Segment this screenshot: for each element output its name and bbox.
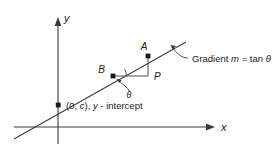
y-axis-arrowhead-icon (55, 17, 62, 26)
gradient-line-figure: y x A B P θ Gradient m = tan θ (0, c), y… (0, 0, 275, 149)
y-intercept-dot (56, 103, 61, 108)
point-b-dot (111, 74, 116, 79)
y-axis-label: y (63, 12, 71, 24)
point-a-label: A (140, 41, 148, 52)
figure-canvas: y x A B P θ Gradient m = tan θ (0, c), y… (0, 0, 275, 149)
x-axis-arrowhead-icon (206, 124, 215, 131)
x-axis-label: x (220, 121, 227, 133)
gradient-symbol-m: m (231, 53, 239, 64)
y-axis (55, 17, 62, 144)
intercept-open: (0, (66, 100, 80, 111)
gradient-prefix: Gradient (192, 53, 231, 64)
point-b-label: B (98, 64, 105, 75)
x-axis (14, 124, 215, 131)
gradient-equals-tan: = tan (239, 53, 266, 64)
intercept-annotation: (0, c), y - intercept (66, 100, 143, 111)
theta-label: θ (127, 90, 132, 100)
gradient-annotation: Gradient m = tan θ (192, 53, 272, 64)
intercept-mid: ), (84, 100, 92, 111)
intercept-suffix: - intercept (98, 100, 143, 111)
straight-line (14, 42, 186, 139)
gradient-leader (171, 45, 189, 58)
gradient-theta: θ (266, 53, 272, 64)
point-p-label: P (154, 71, 161, 82)
point-a-dot (146, 54, 151, 59)
theta-arc (125, 69, 127, 76)
